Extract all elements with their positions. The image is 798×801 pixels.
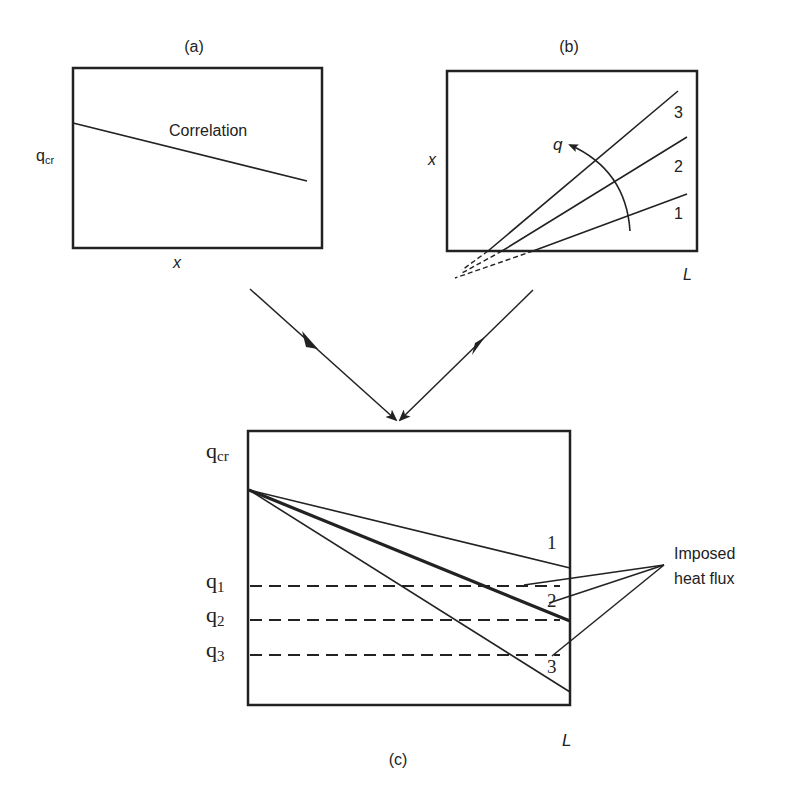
imposed-heat-flux-label-line2: heat flux <box>674 570 734 587</box>
panel-c-x-axis-label: L <box>562 731 571 750</box>
imposed-heat-flux-label-line1: Imposed <box>674 545 735 562</box>
arrow-b-mid-head <box>472 337 485 355</box>
c-q3-label: q3 <box>206 637 225 664</box>
arrow-a-to-c <box>250 289 396 420</box>
c-qcr-label: qcr <box>206 438 229 464</box>
panel-a-x-axis-label: x <box>172 254 182 271</box>
panel-c: 1 2 3 qcr q1 q2 q3 Imposed heat flux L (… <box>206 431 735 768</box>
c-q2-label: q2 <box>206 602 225 629</box>
panel-a-label: (a) <box>184 38 204 55</box>
c-line-3 <box>249 490 570 692</box>
arrow-a-mid-head <box>302 331 318 349</box>
correlation-label: Correlation <box>169 122 247 139</box>
line-3 <box>488 91 678 251</box>
annotation-leader-q2 <box>549 565 664 603</box>
q-arrow-label: q <box>553 135 563 154</box>
panel-a-frame <box>73 68 322 248</box>
panel-a: (a) Correlation qcr x <box>36 38 322 271</box>
line-2-extrapolation <box>462 251 502 273</box>
figure-canvas: (a) Correlation qcr x (b) q 1 2 3 x L <box>0 0 798 801</box>
arrow-b-to-c <box>400 290 533 420</box>
panel-b-frame <box>447 71 697 251</box>
line-2-label: 2 <box>674 158 683 175</box>
line-2 <box>502 137 687 251</box>
panel-c-frame <box>248 431 570 705</box>
line-1-label: 1 <box>674 205 683 222</box>
line-3-label: 3 <box>674 104 683 121</box>
line-1 <box>533 194 687 251</box>
panel-c-label: (c) <box>389 751 408 768</box>
c-line-1-label: 1 <box>547 532 557 553</box>
panel-b-label: (b) <box>559 38 579 55</box>
c-q1-label: q1 <box>206 568 225 595</box>
panel-b-y-axis-label: x <box>427 151 437 168</box>
c-line-3-label: 3 <box>547 656 557 677</box>
panel-b: (b) q 1 2 3 x L <box>427 38 697 283</box>
panel-b-x-axis-label: L <box>683 266 692 283</box>
caption-cutoff <box>0 790 798 801</box>
panel-a-y-axis-label: qcr <box>36 147 54 166</box>
